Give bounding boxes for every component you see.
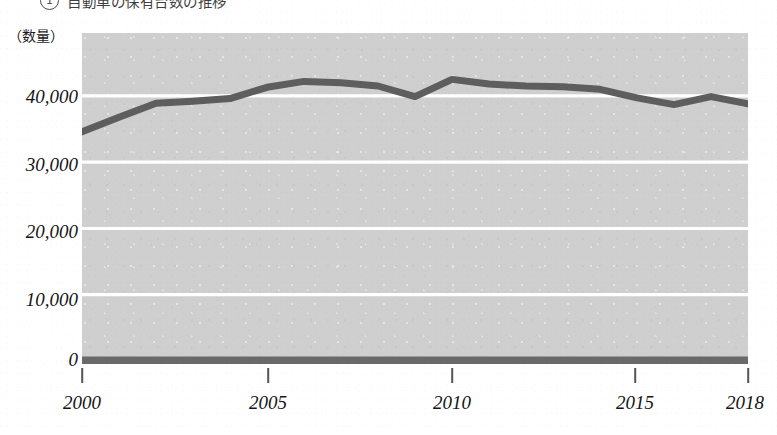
x-tick-mark-2018 <box>747 368 749 383</box>
x-tick-label-2000: 2000 <box>63 392 101 414</box>
x-tick-label-2018: 2018 <box>726 392 764 414</box>
x-tick-mark-2005 <box>267 368 269 383</box>
x-tick-mark-2015 <box>634 368 636 383</box>
x-tick-mark-2000 <box>81 368 83 383</box>
x-tick-label-2015: 2015 <box>616 392 654 414</box>
x-axis-labels: 2000 2005 2010 2015 2018 <box>0 0 777 435</box>
x-tick-mark-2010 <box>451 368 453 383</box>
x-tick-label-2005: 2005 <box>249 392 287 414</box>
x-tick-label-2010: 2010 <box>433 392 471 414</box>
chart-figure: 1 自動車の保有台数の推移 （数量） 40,000 30,000 20,000 … <box>0 0 777 435</box>
